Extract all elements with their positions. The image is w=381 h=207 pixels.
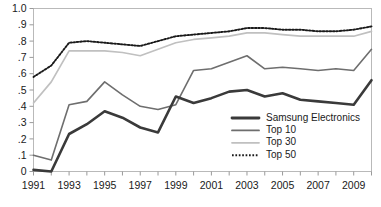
y-tick-label: .5 (18, 84, 27, 96)
x-tick-label: 2009 (342, 179, 366, 191)
y-tick-label: 1.0 (12, 2, 27, 14)
legend-label: Top 50 (266, 149, 296, 160)
chart-canvas: 0.1.2.3.4.5.6.7.8.91.0 19911993199519971… (0, 0, 381, 207)
y-tick-label: .6 (18, 67, 27, 79)
y-tick-label: .3 (18, 116, 27, 128)
x-tick-label: 1995 (93, 179, 117, 191)
y-tick-label: .8 (18, 35, 27, 47)
y-tick-label: 0 (21, 165, 27, 177)
x-tick-label: 2001 (200, 179, 224, 191)
x-tick-label: 1991 (22, 179, 46, 191)
y-tick-label: .2 (18, 133, 27, 145)
y-tick-label: .7 (18, 51, 27, 63)
y-tick-label: .4 (18, 100, 27, 112)
y-tick-label: .9 (18, 18, 27, 30)
legend-label: Samsung Electronics (266, 112, 360, 123)
line-chart: 0.1.2.3.4.5.6.7.8.91.0 19911993199519971… (0, 0, 381, 207)
x-tick-label: 2007 (306, 179, 330, 191)
y-tick-label: .1 (18, 149, 27, 161)
x-tick-label: 2005 (271, 179, 295, 191)
legend-label: Top 10 (266, 124, 296, 135)
x-tick-label: 1993 (57, 179, 81, 191)
x-tick-label: 2003 (235, 179, 259, 191)
x-tick-label: 1997 (129, 179, 153, 191)
x-tick-label: 1999 (164, 179, 188, 191)
legend-label: Top 30 (266, 136, 296, 147)
